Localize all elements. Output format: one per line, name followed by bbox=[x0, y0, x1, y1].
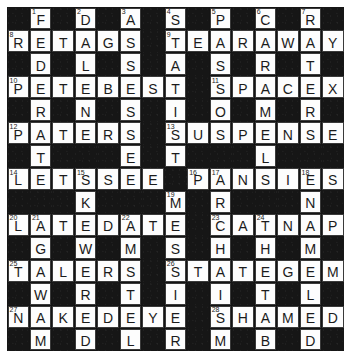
crossword-letter-cell[interactable]: U bbox=[187, 122, 208, 144]
crossword-letter-cell[interactable]: 14L bbox=[8, 168, 29, 190]
crossword-letter-cell[interactable]: E bbox=[255, 260, 276, 282]
crossword-letter-cell[interactable]: I bbox=[277, 168, 298, 190]
crossword-letter-cell[interactable]: 26S bbox=[165, 260, 186, 282]
crossword-letter-cell[interactable]: E bbox=[300, 76, 321, 98]
crossword-letter-cell[interactable]: A bbox=[210, 30, 231, 52]
crossword-letter-cell[interactable]: K bbox=[75, 191, 96, 213]
crossword-letter-cell[interactable]: N bbox=[300, 191, 321, 213]
crossword-letter-cell[interactable]: R bbox=[97, 260, 118, 282]
crossword-letter-cell[interactable]: S bbox=[120, 53, 141, 75]
crossword-letter-cell[interactable]: T bbox=[165, 76, 186, 98]
crossword-letter-cell[interactable]: A bbox=[255, 306, 276, 328]
crossword-letter-cell[interactable]: A bbox=[30, 260, 51, 282]
crossword-letter-cell[interactable]: R bbox=[210, 191, 231, 213]
crossword-letter-cell[interactable]: 10P bbox=[8, 76, 29, 98]
crossword-letter-cell[interactable]: D bbox=[75, 329, 96, 351]
crossword-letter-cell[interactable]: A bbox=[255, 30, 276, 52]
crossword-letter-cell[interactable]: A bbox=[232, 214, 253, 236]
crossword-letter-cell[interactable]: S bbox=[165, 237, 186, 259]
crossword-letter-cell[interactable]: 15S bbox=[75, 168, 96, 190]
crossword-letter-cell[interactable]: M bbox=[210, 329, 231, 351]
crossword-letter-cell[interactable]: E bbox=[255, 122, 276, 144]
crossword-letter-cell[interactable]: S bbox=[120, 99, 141, 121]
crossword-letter-cell[interactable]: T bbox=[187, 260, 208, 282]
crossword-letter-cell[interactable]: R bbox=[255, 53, 276, 75]
crossword-letter-cell[interactable]: E bbox=[142, 168, 163, 190]
crossword-letter-cell[interactable]: T bbox=[52, 214, 73, 236]
crossword-letter-cell[interactable]: N bbox=[277, 214, 298, 236]
crossword-letter-cell[interactable]: 5P bbox=[210, 8, 231, 30]
crossword-letter-cell[interactable]: B bbox=[255, 329, 276, 351]
crossword-letter-cell[interactable]: 17A bbox=[210, 168, 231, 190]
crossword-letter-cell[interactable]: A bbox=[30, 122, 51, 144]
crossword-letter-cell[interactable]: 19M bbox=[165, 191, 186, 213]
crossword-letter-cell[interactable]: G bbox=[277, 260, 298, 282]
crossword-letter-cell[interactable]: E bbox=[75, 122, 96, 144]
crossword-letter-cell[interactable]: 3A bbox=[120, 8, 141, 30]
crossword-letter-cell[interactable]: S bbox=[142, 76, 163, 98]
crossword-letter-cell[interactable]: 27N bbox=[8, 306, 29, 328]
crossword-letter-cell[interactable]: S bbox=[210, 122, 231, 144]
crossword-letter-cell[interactable]: 28S bbox=[210, 306, 231, 328]
crossword-letter-cell[interactable]: 8R bbox=[8, 30, 29, 52]
crossword-letter-cell[interactable]: L bbox=[75, 53, 96, 75]
crossword-letter-cell[interactable]: D bbox=[97, 306, 118, 328]
crossword-letter-cell[interactable]: O bbox=[210, 99, 231, 121]
crossword-letter-cell[interactable]: W bbox=[75, 237, 96, 259]
crossword-letter-cell[interactable]: C bbox=[277, 76, 298, 98]
crossword-letter-cell[interactable]: 22A bbox=[120, 214, 141, 236]
crossword-letter-cell[interactable]: 21A bbox=[30, 214, 51, 236]
crossword-letter-cell[interactable]: E bbox=[75, 260, 96, 282]
crossword-letter-cell[interactable]: T bbox=[142, 214, 163, 236]
crossword-letter-cell[interactable]: N bbox=[75, 99, 96, 121]
crossword-letter-cell[interactable]: 1F bbox=[30, 8, 51, 30]
crossword-letter-cell[interactable]: A bbox=[300, 214, 321, 236]
crossword-letter-cell[interactable]: E bbox=[300, 260, 321, 282]
crossword-letter-cell[interactable]: N bbox=[277, 122, 298, 144]
crossword-letter-cell[interactable]: S bbox=[300, 122, 321, 144]
crossword-letter-cell[interactable]: R bbox=[300, 99, 321, 121]
crossword-letter-cell[interactable]: E bbox=[75, 76, 96, 98]
crossword-letter-cell[interactable]: E bbox=[120, 306, 141, 328]
crossword-letter-cell[interactable]: S bbox=[210, 53, 231, 75]
crossword-letter-cell[interactable]: E bbox=[165, 306, 186, 328]
crossword-letter-cell[interactable]: 18E bbox=[300, 168, 321, 190]
crossword-letter-cell[interactable]: P bbox=[232, 122, 253, 144]
crossword-letter-cell[interactable]: M bbox=[120, 237, 141, 259]
crossword-letter-cell[interactable]: S bbox=[97, 168, 118, 190]
crossword-letter-cell[interactable]: 4S bbox=[165, 8, 186, 30]
crossword-letter-cell[interactable]: D bbox=[30, 53, 51, 75]
crossword-letter-cell[interactable]: A bbox=[165, 53, 186, 75]
crossword-letter-cell[interactable]: E bbox=[120, 145, 141, 167]
crossword-letter-cell[interactable]: T bbox=[255, 283, 276, 305]
crossword-letter-cell[interactable]: A bbox=[210, 260, 231, 282]
crossword-letter-cell[interactable]: T bbox=[300, 53, 321, 75]
crossword-letter-cell[interactable]: E bbox=[75, 214, 96, 236]
crossword-letter-cell[interactable]: L bbox=[120, 329, 141, 351]
crossword-letter-cell[interactable]: M bbox=[30, 329, 51, 351]
crossword-letter-cell[interactable]: E bbox=[120, 168, 141, 190]
crossword-letter-cell[interactable]: 12P bbox=[8, 122, 29, 144]
crossword-letter-cell[interactable]: T bbox=[165, 145, 186, 167]
crossword-letter-cell[interactable]: 24T bbox=[255, 214, 276, 236]
crossword-letter-cell[interactable]: E bbox=[300, 306, 321, 328]
crossword-letter-cell[interactable]: G bbox=[30, 237, 51, 259]
crossword-letter-cell[interactable]: Y bbox=[322, 30, 343, 52]
crossword-letter-cell[interactable]: E bbox=[30, 76, 51, 98]
crossword-letter-cell[interactable]: 16P bbox=[187, 168, 208, 190]
crossword-letter-cell[interactable]: L bbox=[300, 283, 321, 305]
crossword-letter-cell[interactable]: I bbox=[165, 99, 186, 121]
crossword-letter-cell[interactable]: H bbox=[210, 237, 231, 259]
crossword-letter-cell[interactable]: 6C bbox=[255, 8, 276, 30]
crossword-letter-cell[interactable]: 9T bbox=[165, 30, 186, 52]
crossword-letter-cell[interactable]: R bbox=[75, 283, 96, 305]
crossword-letter-cell[interactable]: E bbox=[322, 122, 343, 144]
crossword-letter-cell[interactable]: K bbox=[52, 306, 73, 328]
crossword-letter-cell[interactable]: R bbox=[232, 30, 253, 52]
crossword-letter-cell[interactable]: 7R bbox=[300, 8, 321, 30]
crossword-letter-cell[interactable]: D bbox=[97, 214, 118, 236]
crossword-letter-cell[interactable]: S bbox=[322, 168, 343, 190]
crossword-letter-cell[interactable]: G bbox=[97, 30, 118, 52]
crossword-letter-cell[interactable]: T bbox=[52, 168, 73, 190]
crossword-letter-cell[interactable]: P bbox=[322, 214, 343, 236]
